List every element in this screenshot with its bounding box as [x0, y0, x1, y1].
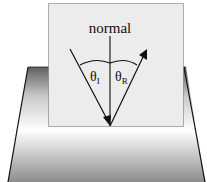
theta-reflected-subscript: R — [122, 76, 128, 86]
normal-label: normal — [89, 20, 132, 36]
reflection-diagram: normal θI θR — [0, 0, 207, 182]
theta-incident-subscript: I — [97, 76, 100, 86]
